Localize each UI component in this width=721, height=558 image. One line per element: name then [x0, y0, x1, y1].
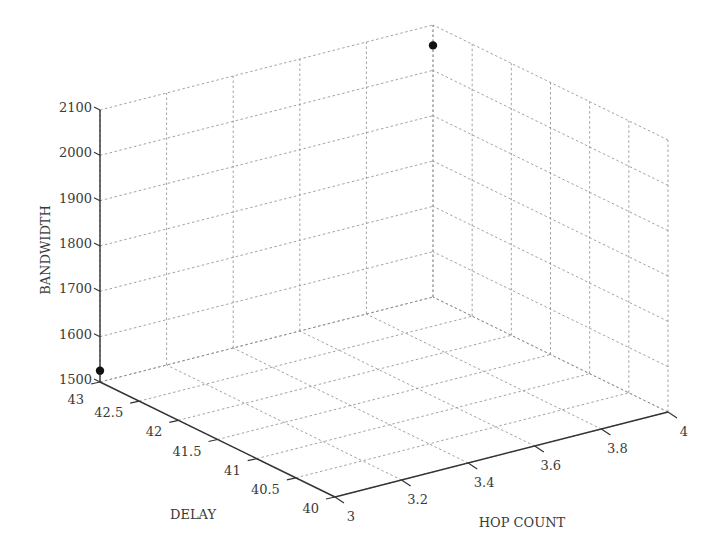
y-tick: [91, 382, 100, 384]
y-tick-label: 41: [224, 463, 241, 478]
back-wall-grid-line: [100, 161, 433, 246]
y-tick: [169, 420, 178, 422]
y-tick: [287, 478, 296, 480]
z-tick: [94, 107, 100, 110]
z-tick: [94, 198, 100, 201]
z-axis-label: BANDWIDTH: [38, 205, 53, 295]
y-axis-label: DELAY: [170, 507, 216, 522]
grid-lines: [100, 25, 668, 497]
z-tick-label: 1700: [59, 281, 92, 296]
y-tick-label: 41.5: [173, 444, 202, 459]
back-wall-grid-line: [100, 206, 433, 291]
z-tick: [94, 379, 100, 382]
floor-grid-line: [167, 365, 402, 480]
z-tick-label: 2000: [59, 145, 92, 160]
z-tick-label: 1800: [59, 236, 92, 251]
floor-grid-line: [257, 374, 590, 459]
z-tick-label: 1500: [59, 372, 92, 387]
x-tick-label: 3.2: [407, 492, 428, 507]
z-tick: [94, 334, 100, 337]
y-tick-label: 43: [67, 392, 84, 407]
x-tick-label: 3.8: [607, 441, 628, 456]
x-axis-label: HOP COUNT: [479, 515, 566, 530]
x-tick-label: 3: [347, 509, 355, 524]
z-tick-label: 1900: [59, 191, 92, 206]
y-tick: [326, 497, 335, 499]
x-tick: [402, 480, 411, 486]
x-tick: [468, 463, 477, 469]
back-wall-grid-line: [100, 70, 433, 155]
x-tick: [535, 446, 544, 452]
z-tick: [94, 152, 100, 155]
x-tick: [601, 429, 610, 435]
z-tick: [94, 288, 100, 291]
y-tick-label: 42.5: [94, 405, 123, 420]
x-tick: [335, 497, 344, 503]
y-tick-label: 40: [302, 501, 319, 516]
floor-grid-line: [139, 316, 472, 401]
back-wall-grid-line: [100, 252, 433, 337]
y-tick-label: 40.5: [251, 482, 280, 497]
x-tick-label: 4: [680, 424, 688, 439]
y-tick: [130, 401, 139, 403]
floor-grid-line: [366, 314, 601, 429]
z-tick-label: 2100: [59, 100, 92, 115]
x-tick-label: 3.6: [540, 458, 561, 473]
back-wall-grid-line: [100, 116, 433, 201]
floor-grid-line: [218, 355, 551, 440]
z-tick-label: 1600: [59, 327, 92, 342]
3d-scatter-chart: 33.23.43.63.844040.54141.54242.543150016…: [0, 0, 721, 558]
floor-grid-line: [178, 335, 511, 420]
x-tick: [668, 412, 677, 418]
y-tick: [209, 440, 218, 442]
x-tick-label: 3.4: [474, 475, 495, 490]
data-point: [429, 41, 437, 49]
y-tick-label: 42: [146, 424, 163, 439]
back-wall-grid-line: [100, 25, 433, 110]
back-wall-grid-line: [100, 297, 433, 382]
data-point: [96, 366, 104, 374]
y-tick: [248, 459, 257, 461]
z-tick: [94, 243, 100, 246]
data-points: [96, 41, 437, 375]
